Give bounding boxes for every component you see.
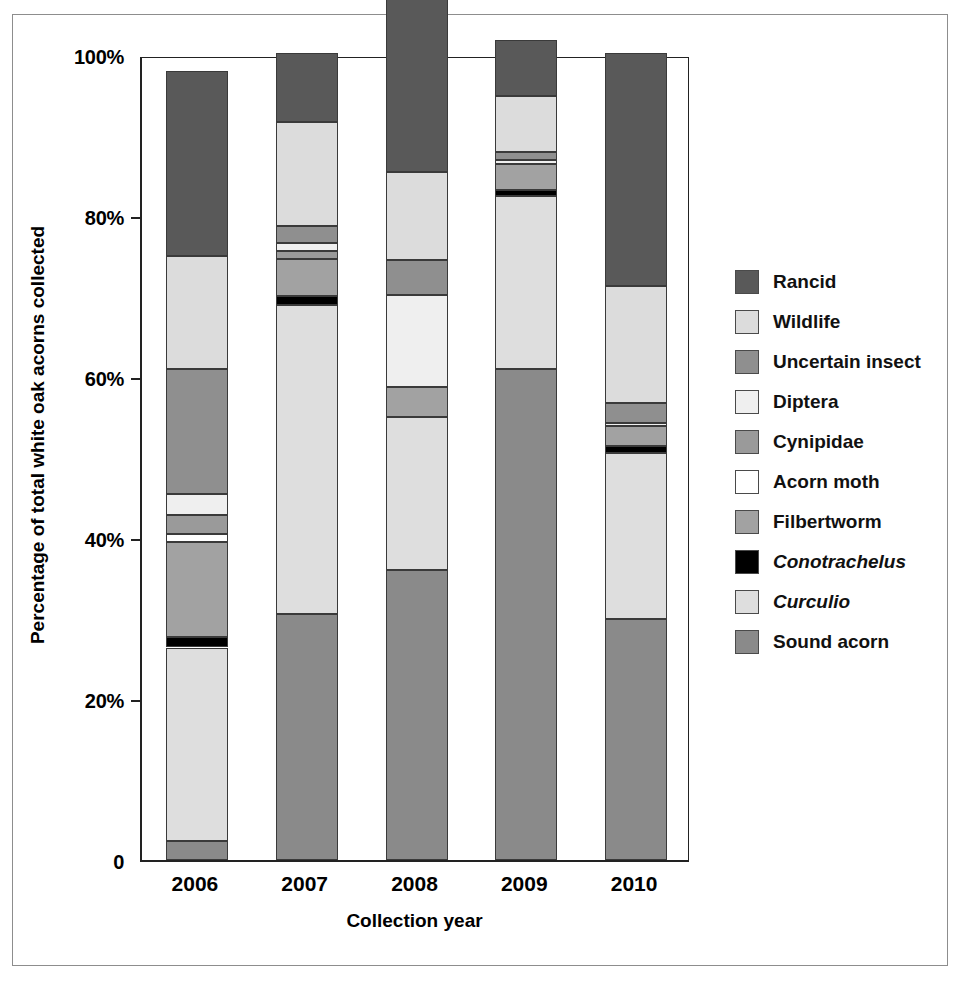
plot-area [140, 57, 689, 862]
chart-legend: RancidWildlifeUncertain insectDipteraCyn… [735, 262, 945, 662]
y-tick-label-0: 0 [113, 851, 124, 874]
legend-swatch-icon [735, 350, 759, 374]
bar-segment-2010-conotrachelus [605, 446, 667, 453]
bar-segment-2006-uncertain-insect [166, 369, 228, 494]
figure-canvas: Percentage of total white oak acorns col… [0, 0, 968, 983]
bar-2010 [605, 55, 667, 860]
bar-segment-2008-diptera [386, 295, 448, 388]
bar-segment-2006-diptera [166, 494, 228, 516]
bar-segment-2010-sound-acorn [605, 619, 667, 861]
bar-segment-2008-uncertain-insect [386, 260, 448, 295]
bar-segment-2006-cynipidae [166, 515, 228, 534]
x-tick-label-2008: 2008 [391, 872, 438, 896]
y-tick-label-60: 60% [85, 368, 124, 391]
bar-segment-2007-filbertworm [276, 259, 338, 296]
legend-swatch-icon [735, 470, 759, 494]
x-tick-label-2006: 2006 [172, 872, 219, 896]
bar-segment-2006-rancid [166, 71, 228, 256]
legend-swatch-icon [735, 310, 759, 334]
legend-swatch-icon [735, 590, 759, 614]
bar-segment-2006-conotrachelus [166, 637, 228, 647]
legend-item-sound-acorn[interactable]: Sound acorn [735, 622, 945, 662]
x-axis-title: Collection year [140, 910, 689, 932]
legend-item-diptera[interactable]: Diptera [735, 382, 945, 422]
bar-segment-2006-sound-acorn [166, 841, 228, 860]
bar-segment-2010-wildlife [605, 286, 667, 403]
legend-item-uncertain-insect[interactable]: Uncertain insect [735, 342, 945, 382]
bar-segment-2009-conotrachelus [495, 190, 557, 196]
legend-label: Cynipidae [773, 431, 864, 453]
bar-segment-2008-sound-acorn [386, 570, 448, 860]
bar-segment-2007-diptera [276, 243, 338, 251]
legend-label: Rancid [773, 271, 836, 293]
legend-swatch-icon [735, 630, 759, 654]
bar-segment-2009-sound-acorn [495, 369, 557, 860]
bar-segment-2010-curculio [605, 453, 667, 618]
legend-label: Wildlife [773, 311, 840, 333]
legend-label: Conotrachelus [773, 551, 906, 573]
legend-label: Uncertain insect [773, 351, 921, 373]
bar-2009 [495, 55, 557, 860]
bar-segment-2010-rancid [605, 53, 667, 286]
legend-swatch-icon [735, 390, 759, 414]
legend-label: Filbertworm [773, 511, 882, 533]
bar-segment-2010-uncertain-insect [605, 403, 667, 423]
legend-item-cynipidae[interactable]: Cynipidae [735, 422, 945, 462]
y-tick-label-80: 80% [85, 207, 124, 230]
bar-segment-2007-curculio [276, 305, 338, 615]
bar-segment-2010-diptera [605, 423, 667, 426]
y-tick-label-40: 40% [85, 529, 124, 552]
bar-2008 [386, 55, 448, 860]
legend-label: Curculio [773, 591, 850, 613]
legend-swatch-icon [735, 430, 759, 454]
legend-swatch-icon [735, 510, 759, 534]
y-tick-label-100: 100% [74, 46, 124, 69]
bar-segment-2007-sound-acorn [276, 614, 338, 860]
bar-segment-2009-filbertworm [495, 164, 557, 191]
y-tick-label-20: 20% [85, 690, 124, 713]
bar-segment-2007-rancid [276, 53, 338, 121]
bar-segment-2009-curculio [495, 196, 557, 369]
x-tick-label-2010: 2010 [611, 872, 658, 896]
legend-item-acorn-moth[interactable]: Acorn moth [735, 462, 945, 502]
x-tick-label-2009: 2009 [501, 872, 548, 896]
bar-segment-2008-filbertworm [386, 387, 448, 417]
legend-label: Sound acorn [773, 631, 889, 653]
bar-2006 [166, 55, 228, 860]
bar-segment-2006-acorn-moth [166, 534, 228, 542]
bar-segment-2009-diptera [495, 160, 557, 163]
bar-segment-2007-cynipidae [276, 251, 338, 259]
bar-segment-2008-rancid [386, 0, 448, 172]
bar-segment-2010-filbertworm [605, 426, 667, 446]
legend-item-curculio[interactable]: Curculio [735, 582, 945, 622]
bar-segment-2009-wildlife [495, 96, 557, 152]
legend-item-conotrachelus[interactable]: Conotrachelus [735, 542, 945, 582]
bar-segment-2008-curculio [386, 417, 448, 570]
bar-segment-2007-conotrachelus [276, 296, 338, 305]
bar-2007 [276, 55, 338, 860]
legend-swatch-icon [735, 270, 759, 294]
bar-segment-2007-uncertain-insect [276, 226, 338, 242]
legend-item-wildlife[interactable]: Wildlife [735, 302, 945, 342]
y-axis-ticks: 020%40%60%80%100% [0, 0, 140, 983]
legend-item-rancid[interactable]: Rancid [735, 262, 945, 302]
bar-segment-2009-uncertain-insect [495, 152, 557, 160]
bar-segment-2006-wildlife [166, 256, 228, 369]
bar-segment-2007-wildlife [276, 122, 338, 227]
legend-swatch-icon [735, 550, 759, 574]
legend-label: Diptera [773, 391, 838, 413]
bar-segment-2006-filbertworm [166, 542, 228, 637]
bar-segment-2006-curculio [166, 648, 228, 841]
legend-label: Acorn moth [773, 471, 880, 493]
x-tick-label-2007: 2007 [281, 872, 328, 896]
bar-segment-2009-rancid [495, 40, 557, 96]
bar-segment-2008-wildlife [386, 172, 448, 261]
legend-item-filbertworm[interactable]: Filbertworm [735, 502, 945, 542]
